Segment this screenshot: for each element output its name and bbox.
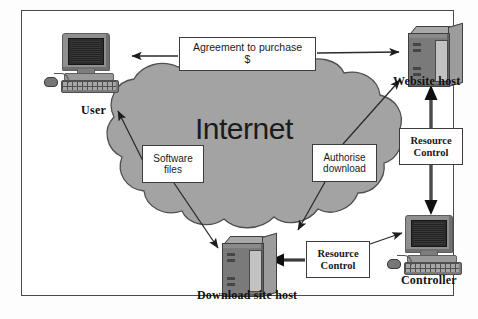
node-label-controller: Controller xyxy=(401,273,457,288)
diagram-frame: Internet xyxy=(21,10,454,296)
arrow-authorise-to-download-path xyxy=(298,182,325,230)
label-box-resource-control-bottom: Resource Control xyxy=(306,241,370,278)
agreement-line-2: $ xyxy=(245,54,251,66)
arrowhead-down-controller xyxy=(425,200,438,215)
rc-bottom-line-1: Resource xyxy=(317,248,358,260)
authorise-line-1: Authorise xyxy=(323,152,365,163)
software-line-2: files xyxy=(164,164,182,175)
software-line-1: Software xyxy=(153,153,192,164)
arrow-agreement-to-website-host xyxy=(317,52,399,53)
diagram-canvas: Internet xyxy=(0,0,478,319)
arrow-rc-to-controller xyxy=(370,233,402,244)
node-label-download-site-host: Download site host xyxy=(197,288,297,303)
arrow-software-to-download-host xyxy=(174,183,218,248)
node-label-website-host: Website host xyxy=(393,74,460,89)
arrow-authorise-to-website-host xyxy=(343,80,400,144)
label-box-agreement-to-purchase: Agreement to purchase $ xyxy=(179,37,316,71)
label-box-software-files: Software files xyxy=(142,145,204,183)
rc-bottom-line-2: Control xyxy=(321,260,356,272)
arrow-software-to-user xyxy=(118,111,144,163)
authorise-line-2: download xyxy=(323,163,366,174)
label-box-authorise-download: Authorise download xyxy=(312,144,377,182)
label-box-resource-control-right: Resource Control xyxy=(399,128,463,165)
rc-right-line-2: Control xyxy=(414,147,449,159)
node-label-user: User xyxy=(81,103,106,118)
rc-right-line-1: Resource xyxy=(410,135,451,147)
